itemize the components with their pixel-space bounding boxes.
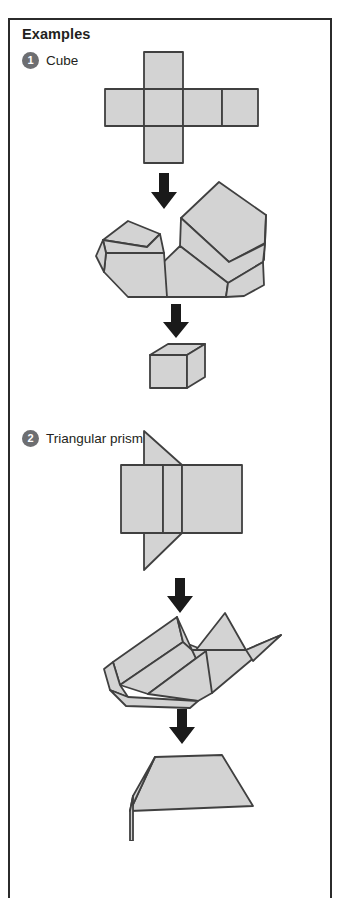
step-number-badge: 2 [22,430,39,447]
example-1-name: Cube [46,53,78,68]
examples-panel [8,18,332,898]
example-2-name: Triangular prism [46,431,143,446]
page-title: Examples [22,26,91,42]
example-1-label: 1 Cube [22,52,78,69]
step-number-badge: 1 [22,52,39,69]
example-2-label: 2 Triangular prism [22,430,143,447]
